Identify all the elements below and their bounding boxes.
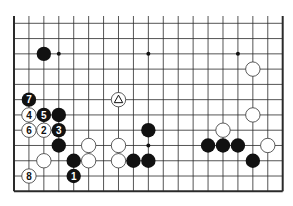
white-stone bbox=[246, 62, 260, 76]
white-stone-2: 2 bbox=[37, 123, 51, 137]
move-number: 4 bbox=[26, 110, 32, 121]
move-number: 7 bbox=[26, 94, 32, 105]
white-stone bbox=[111, 92, 125, 106]
black-stone-3: 3 bbox=[52, 123, 66, 137]
white-stone-6: 6 bbox=[22, 123, 36, 137]
star-point bbox=[57, 52, 61, 56]
black-stone bbox=[141, 154, 155, 168]
white-stone bbox=[81, 154, 95, 168]
white-stone bbox=[37, 154, 51, 168]
black-stone bbox=[52, 138, 66, 152]
white-stone bbox=[111, 154, 125, 168]
black-stone bbox=[126, 154, 140, 168]
black-stone bbox=[246, 154, 260, 168]
move-number: 6 bbox=[26, 125, 32, 136]
move-number: 2 bbox=[41, 125, 47, 136]
black-stone bbox=[141, 123, 155, 137]
white-stone bbox=[111, 138, 125, 152]
move-number: 8 bbox=[26, 171, 32, 182]
black-stone bbox=[67, 154, 81, 168]
star-point bbox=[236, 52, 240, 56]
black-stone-1: 1 bbox=[67, 169, 81, 183]
black-stone bbox=[37, 47, 51, 61]
black-stone-7: 7 bbox=[22, 92, 36, 106]
black-stone-5: 5 bbox=[37, 108, 51, 122]
star-point bbox=[146, 52, 150, 56]
white-stone-4: 4 bbox=[22, 108, 36, 122]
go-board: 13572468 bbox=[0, 0, 293, 206]
black-stone bbox=[216, 138, 230, 152]
black-stone bbox=[52, 108, 66, 122]
white-stone bbox=[261, 138, 275, 152]
star-point bbox=[146, 143, 150, 147]
move-number: 3 bbox=[56, 125, 62, 136]
white-stone-8: 8 bbox=[22, 169, 36, 183]
move-number: 1 bbox=[71, 171, 77, 182]
black-stone bbox=[201, 138, 215, 152]
move-number: 5 bbox=[41, 110, 47, 121]
white-stone bbox=[246, 108, 260, 122]
white-stone bbox=[216, 123, 230, 137]
black-stone bbox=[231, 138, 245, 152]
white-stone bbox=[81, 138, 95, 152]
